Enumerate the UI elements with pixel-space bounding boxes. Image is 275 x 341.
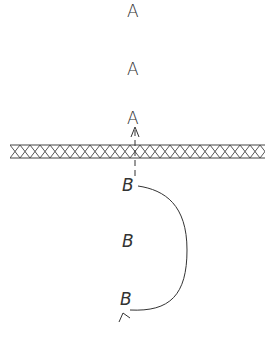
hatched-barrier (10, 145, 265, 158)
diagram-canvas: A A A B B B (0, 0, 275, 341)
diagram-graphics (0, 0, 275, 341)
curved-arrow-loop (119, 186, 187, 322)
